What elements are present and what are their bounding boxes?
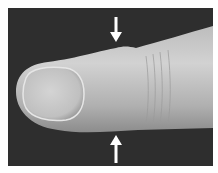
fingernail xyxy=(23,67,84,120)
finger-illustration xyxy=(8,8,213,166)
finger-photo xyxy=(8,8,213,166)
